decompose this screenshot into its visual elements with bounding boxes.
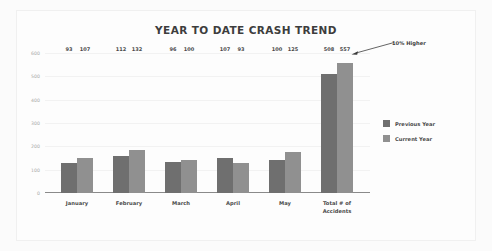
bar-january-previous-year[interactable]: 93 (61, 53, 77, 193)
page-title: YEAR TO DATE CRASH TREND (0, 24, 492, 36)
bar-value-label: 508 (324, 46, 334, 52)
category-label-april: April (226, 200, 240, 208)
legend-item-current-year[interactable]: Current Year (383, 135, 435, 142)
bar-value-label: 107 (220, 46, 230, 52)
category-label-line1: March (172, 200, 190, 206)
bar-may-current-year[interactable]: 125 (285, 53, 301, 193)
category-label-march: March (172, 200, 190, 208)
bar-total-current-year[interactable]: 557 (337, 53, 353, 193)
bar-value-label: 112 (116, 46, 126, 52)
category-label-line2: Accidents (323, 208, 351, 214)
category-label-line1: January (66, 200, 88, 206)
bar-march-current-year[interactable]: 100 (181, 53, 197, 193)
y-tick-600: 600 (31, 51, 40, 56)
chart-legend: Previous Year Current Year (383, 120, 435, 150)
bar-group-january: 93 107 January (61, 53, 93, 193)
category-label-line1: Total # of (323, 200, 351, 206)
annotation-arrow-icon (349, 41, 395, 57)
bar-april-previous-year[interactable]: 107 (217, 53, 233, 193)
bar-value-label: 100 (184, 46, 194, 52)
category-label-january: January (66, 200, 88, 208)
bar-value-label: 125 (288, 46, 298, 52)
annotation-label-10-percent-higher: 10% Higher (392, 40, 426, 46)
legend-swatch-icon-previous-year (383, 120, 390, 127)
bar-total-previous-year[interactable]: 508 (321, 53, 337, 193)
y-tick-400: 400 (31, 97, 40, 102)
bar-january-current-year[interactable]: 107 (77, 53, 93, 193)
plot-area: 600 500 400 300 200 100 0 93 107 January… (45, 53, 370, 193)
bar-value-label: 93 (238, 46, 245, 52)
bar-april-current-year[interactable]: 93 (233, 53, 249, 193)
category-label-february: February (116, 200, 142, 208)
category-label-line1: February (116, 200, 142, 206)
bar-value-label: 107 (80, 46, 90, 52)
bar-group-april: 107 93 April (217, 53, 249, 193)
bar-group-march: 96 100 March (165, 53, 197, 193)
y-tick-100: 100 (31, 167, 40, 172)
bar-march-previous-year[interactable]: 96 (165, 53, 181, 193)
bar-may-previous-year[interactable]: 100 (269, 53, 285, 193)
bar-value-label: 132 (132, 46, 142, 52)
chart-screenshot: YEAR TO DATE CRASH TREND 600 500 400 300… (0, 0, 492, 251)
legend-label-current-year: Current Year (395, 136, 432, 142)
legend-item-previous-year[interactable]: Previous Year (383, 120, 435, 127)
category-label-total: Total # of Accidents (323, 200, 351, 215)
bar-value-label: 100 (272, 46, 282, 52)
bar-february-current-year[interactable]: 132 (129, 53, 145, 193)
legend-swatch-icon-current-year (383, 135, 390, 142)
y-tick-0: 0 (37, 191, 40, 196)
category-label-line1: May (279, 200, 291, 206)
y-tick-300: 300 (31, 121, 40, 126)
bar-group-may: 100 125 May (269, 53, 301, 193)
legend-label-previous-year: Previous Year (395, 121, 435, 127)
bar-group-total: 508 557 Total # of Accidents (321, 53, 353, 193)
category-label-may: May (279, 200, 291, 208)
category-label-line1: April (226, 200, 240, 206)
bar-february-previous-year[interactable]: 112 (113, 53, 129, 193)
y-tick-200: 200 (31, 144, 40, 149)
bar-value-label: 93 (66, 46, 73, 52)
bar-group-february: 112 132 February (113, 53, 145, 193)
y-tick-500: 500 (31, 74, 40, 79)
bar-value-label: 96 (170, 46, 177, 52)
